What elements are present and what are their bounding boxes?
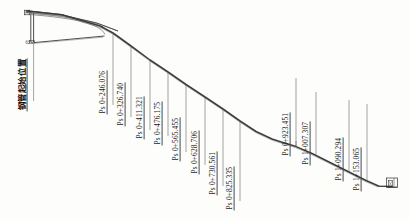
profile-drawing <box>0 0 409 219</box>
drawing-sheet: 钢管起始位置 Ps 0+246.076 Ps 0+326.740 Ps 0+41… <box>0 0 409 219</box>
intake-structure <box>25 10 35 43</box>
station-label-0: Ps 0+246.076 <box>98 71 107 115</box>
station-label-6: Ps 0+730.561 <box>208 152 217 196</box>
station-label-8: Ps 0+923.451 <box>281 113 290 157</box>
station-label-5: Ps 0+628.706 <box>190 131 199 175</box>
station-label-9: Ps 1+007.307 <box>301 122 310 166</box>
station-label-11: Ps 1+153.065 <box>352 148 361 192</box>
penstock-profile-line <box>27 11 379 187</box>
station-label-1: Ps 0+326.740 <box>116 83 125 127</box>
station-label-2: Ps 0+411.321 <box>135 96 144 139</box>
station-label-4: Ps 0+565.455 <box>171 118 180 162</box>
start-position-label: 钢管起始位置 <box>18 59 28 112</box>
station-label-3: Ps 0+476.175 <box>153 102 162 146</box>
station-label-10: Ps 1+090.294 <box>334 138 343 182</box>
ground-surface-lines <box>27 11 119 44</box>
powerhouse-structure <box>379 178 398 187</box>
station-label-7: Ps 0+825.335 <box>225 167 234 211</box>
callout-leader-lines <box>34 34 367 202</box>
